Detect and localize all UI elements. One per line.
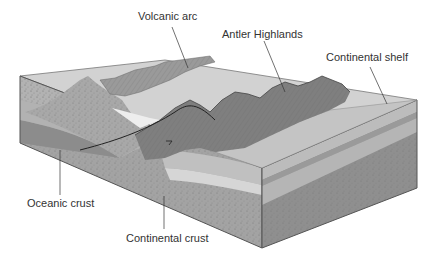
label-oceanic-crust: Oceanic crust	[27, 197, 94, 209]
label-volcanic-arc: Volcanic arc	[138, 10, 197, 22]
label-continental-shelf: Continental shelf	[326, 51, 408, 63]
label-antler-highlands: Antler Highlands	[222, 28, 303, 40]
label-continental-crust: Continental crust	[126, 232, 209, 244]
block-diagram: Volcanic arc Antler Highlands Continenta…	[0, 0, 429, 259]
